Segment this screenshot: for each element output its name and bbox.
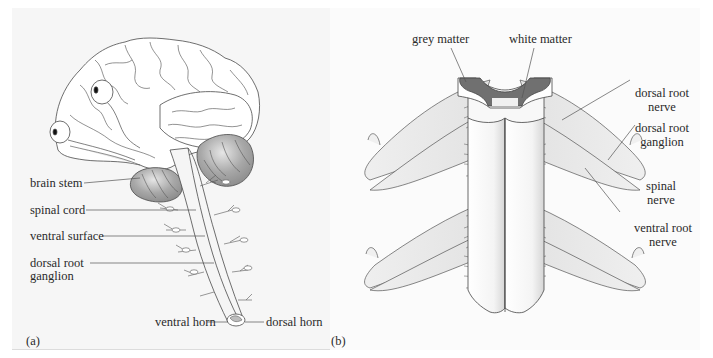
label-dorsal-root-ganglion-b-line2: ganglion [632,136,692,149]
label-brain-stem: brain stem [30,177,82,190]
label-white-matter: white matter [509,33,572,46]
label-ventral-root-nerve-line1: ventral root [628,222,698,235]
diagram-artwork [0,0,713,358]
leader-lines-a [84,178,264,322]
label-grey-matter: grey matter [412,33,469,46]
label-dorsal-root-nerve-line1: dorsal root [632,87,692,100]
label-spinal-nerve-line2: nerve [636,194,686,207]
label-ventral-root-nerve-line2: nerve [628,236,698,249]
label-dorsal-root-ganglion-a-line2: ganglion [30,270,74,283]
panel-b-id: (b) [331,335,346,348]
label-dorsal-horn: dorsal horn [266,316,323,329]
label-ventral-surface: ventral surface [30,230,104,243]
spinal-cord-column [458,78,552,313]
label-spinal-nerve-line1: spinal [636,180,686,193]
label-dorsal-root-ganglion-b-line1: dorsal root [632,122,692,135]
pons [130,168,182,202]
label-ventral-horn: ventral horn [155,316,216,329]
cerebellum [197,134,254,186]
label-spinal-cord: spinal cord [30,204,85,217]
panel-a-id: (a) [26,335,40,348]
label-dorsal-root-nerve-line2: nerve [632,101,692,114]
